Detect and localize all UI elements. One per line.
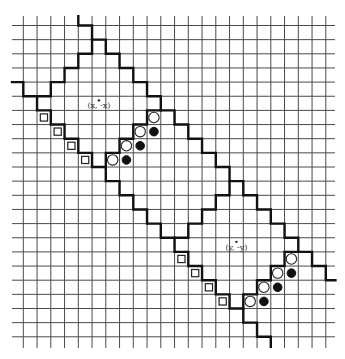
filled-circle-marker-icon [150, 127, 159, 136]
square-marker-icon [205, 284, 212, 291]
open-circle-marker-icon [121, 141, 131, 151]
point-labels: (x, -x) (y, -y) [87, 99, 247, 252]
upper-right-staircase [78, 16, 335, 280]
point-x-label: (x, -x) [87, 101, 110, 110]
grid [12, 16, 335, 348]
square-marker-icon [54, 128, 61, 135]
open-circle-marker-icon [259, 282, 269, 292]
open-circle-marker-icon [107, 155, 117, 165]
filled-circle-marker-icon [260, 297, 269, 306]
open-circle-marker-icon [149, 112, 159, 122]
filled-circle-marker-icon [122, 156, 131, 165]
square-marker-icon [192, 270, 199, 277]
open-circle-marker-icon [135, 126, 145, 136]
filled-circle-marker-icon [136, 141, 145, 150]
open-circle-marker-icon [245, 296, 255, 306]
filled-circle-marker-icon [287, 269, 296, 278]
square-marker-icon [40, 114, 47, 121]
open-circle-marker-icon [272, 268, 282, 278]
square-marker-icon [219, 298, 226, 305]
point-y-label: (y, -y) [225, 243, 247, 252]
square-marker-icon [82, 156, 89, 163]
square-marker-icon [178, 255, 185, 262]
lattice-diagram: (x, -x) (y, -y) [0, 0, 345, 359]
square-marker-icon [68, 142, 75, 149]
filled-circle-marker-icon [273, 283, 282, 292]
point-x-marker: (x, -x) [87, 99, 110, 110]
open-circle-marker-icon [286, 254, 296, 264]
point-y-marker: (y, -y) [225, 241, 247, 252]
